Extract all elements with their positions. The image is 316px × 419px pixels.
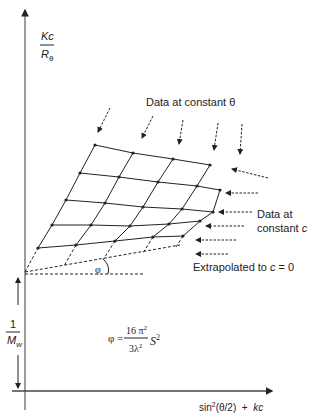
intercept-numerator: 1 (10, 318, 16, 331)
grid-constant-theta (38, 145, 220, 248)
svg-text:φ: φ (95, 264, 101, 275)
extrapolated-c0-line (25, 245, 180, 272)
formula-denominator: 3λ2 (129, 340, 142, 355)
formula-numerator: 16 π2 (126, 322, 147, 337)
y-axis-numerator: Kc (41, 30, 54, 43)
constant-theta-label: Data at constant θ (146, 96, 235, 109)
constant-c-label-line2: constant c (257, 222, 307, 235)
y-axis-denominator: Rθ (41, 48, 53, 65)
extrapolated-theta0-line (25, 248, 38, 272)
constant-theta-arrows (98, 108, 242, 154)
intercept-denominator: Mw (7, 334, 22, 351)
constant-c-label-line1: Data at (257, 208, 292, 221)
angle-arc (104, 260, 109, 274)
formula-rhs: S2 (150, 331, 160, 348)
extrapolated-label: Extrapolated to c = 0 (193, 261, 294, 274)
x-axis-label: sin2(θ/2) + kc (199, 398, 263, 414)
formula-lhs: φ = (108, 332, 123, 345)
